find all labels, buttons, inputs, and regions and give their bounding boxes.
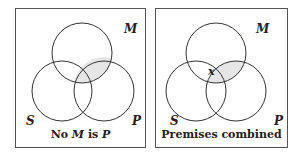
caption-left: No M is P <box>16 128 145 141</box>
caption-right: Premises combined <box>156 128 287 141</box>
label-p: P <box>273 114 284 128</box>
circle-s <box>166 61 226 121</box>
shaded-m-p-region <box>74 57 134 117</box>
label-s: S <box>170 114 179 128</box>
label-p: P <box>131 114 142 128</box>
label-m: M <box>255 22 270 36</box>
venn-panel-no-m-is-p: M S P No M is P <box>15 8 146 148</box>
label-s: S <box>26 114 35 128</box>
label-m: M <box>123 22 138 36</box>
existence-mark-x: x <box>207 65 215 78</box>
venn-panel-premises-combined: x M S P Premises combined <box>155 8 288 148</box>
